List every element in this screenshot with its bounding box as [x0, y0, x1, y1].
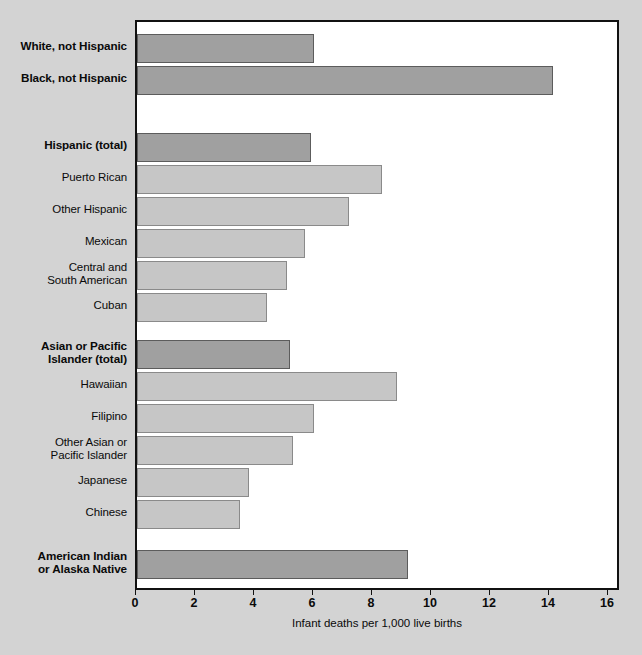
plot-area [135, 20, 619, 590]
category-label: Puerto Rican [62, 171, 127, 184]
category-label: Cuban [94, 299, 127, 312]
bar [137, 165, 382, 194]
category-label: Chinese [86, 506, 128, 519]
axis-tick-label: 10 [423, 596, 437, 610]
bar [137, 404, 314, 433]
axis-tick [489, 588, 490, 595]
axis-tick-label: 12 [482, 596, 496, 610]
category-label: Central and South American [47, 261, 127, 286]
axis-tick-label: 16 [600, 596, 614, 610]
category-label: Filipino [91, 410, 127, 423]
category-label: Other Hispanic [52, 203, 127, 216]
bar [137, 550, 408, 579]
bar [137, 436, 293, 465]
bar [137, 340, 290, 369]
axis-tick-label: 8 [368, 596, 375, 610]
category-label: Hispanic (total) [44, 139, 127, 152]
axis-tick [548, 588, 549, 595]
axis-tick [607, 588, 608, 595]
axis-tick [312, 588, 313, 595]
chart-figure: White, not HispanicBlack, not HispanicHi… [0, 0, 642, 655]
category-label-column: White, not HispanicBlack, not HispanicHi… [0, 20, 133, 590]
category-label: Black, not Hispanic [21, 72, 127, 85]
bar [137, 500, 240, 529]
axis-tick-label: 6 [309, 596, 316, 610]
axis-tick [253, 588, 254, 595]
x-axis-title: Infant deaths per 1,000 live births [135, 617, 619, 629]
bar [137, 66, 553, 95]
axis-tick [194, 588, 195, 595]
category-label: Mexican [85, 235, 127, 248]
axis-tick [430, 588, 431, 595]
bar [137, 197, 349, 226]
x-axis-ticks [135, 588, 619, 596]
axis-tick [135, 588, 136, 595]
bar [137, 372, 397, 401]
bar [137, 229, 305, 258]
bars-container [137, 22, 617, 588]
axis-tick-label: 2 [191, 596, 198, 610]
bar [137, 293, 267, 322]
bar [137, 468, 249, 497]
bar [137, 261, 287, 290]
category-label: Japanese [78, 474, 127, 487]
bar [137, 34, 314, 63]
axis-tick [371, 588, 372, 595]
category-label: Other Asian or Pacific Islander [51, 436, 127, 461]
category-label: Hawaiian [80, 378, 127, 391]
axis-tick-label: 0 [132, 596, 139, 610]
category-label: White, not Hispanic [20, 40, 127, 53]
category-label: Asian or Pacific Islander (total) [41, 340, 127, 365]
axis-tick-label: 4 [250, 596, 257, 610]
bar [137, 133, 311, 162]
axis-tick-label: 14 [541, 596, 555, 610]
category-label: American Indian or Alaska Native [38, 550, 127, 575]
x-axis-tick-labels: 0246810121416 [0, 596, 642, 614]
